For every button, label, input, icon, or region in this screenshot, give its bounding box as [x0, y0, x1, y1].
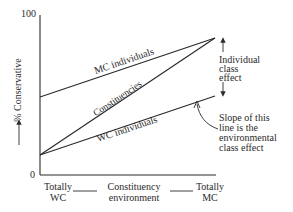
constituencies-label: Constituencies — [91, 79, 143, 119]
x-label-middle-line1: Constituency — [108, 181, 161, 192]
x-label-middle-line2: environment — [109, 192, 160, 203]
slope-note-line4: class effect — [219, 142, 264, 153]
x-label-right-line1: Totally — [196, 181, 224, 192]
diagram-canvas: 100 0 % Conservative MC individuals Cons… — [0, 0, 293, 212]
x-label-right-line2: MC — [202, 192, 218, 203]
x-label-left-line2: WC — [50, 192, 66, 203]
y-tick-100: 100 — [21, 8, 36, 19]
y-tick-0: 0 — [30, 169, 35, 180]
y-axis-title: % Conservative — [12, 58, 23, 122]
x-label-left-line1: Totally — [44, 181, 72, 192]
wc-individuals-label: WC individuals — [95, 113, 158, 144]
individual-effect-line3: effect — [219, 72, 242, 83]
